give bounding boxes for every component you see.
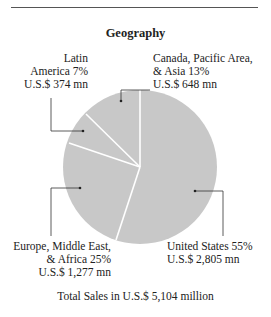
label-canada-pacific-asia: Canada, Pacific Area, & Asia 13% U.S.$ 6…: [153, 52, 253, 91]
pie-slices: [63, 90, 217, 244]
total-sales-caption: Total Sales in U.S.$ 5,104 million: [0, 290, 271, 302]
label-united-states: United States 55% U.S.$ 2,805 mn: [167, 240, 253, 266]
label-latin-america: Latin America 7% U.S.$ 374 mn: [10, 52, 88, 91]
label-emea: Europe, Middle East, & Africa 25% U.S.$ …: [5, 240, 111, 279]
